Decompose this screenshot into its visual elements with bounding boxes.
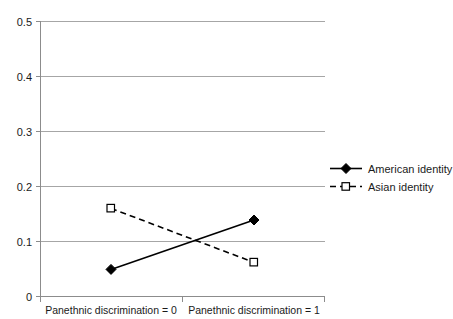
y-tick-label-0.5: 0.5: [17, 16, 32, 28]
y-tick-label-0.3: 0.3: [17, 126, 32, 138]
legend-label-american-identity: American identity: [368, 163, 453, 175]
legend-item-asian-identity[interactable]: Asian identity: [330, 181, 434, 193]
y-tick-label-0.2: 0.2: [17, 181, 32, 193]
legend-marker-square-icon: [342, 183, 350, 191]
x-label-left: Panethnic discrimination = 0: [45, 304, 177, 316]
line-chart: 0.5 0.4 0.3 0.2 0.1 0 Panethnic discrimi…: [0, 0, 453, 319]
y-tick-label-0: 0: [26, 291, 32, 303]
y-tick-label-0.4: 0.4: [17, 71, 32, 83]
data-point-asian-0: [107, 204, 115, 212]
y-tick-label-0.1: 0.1: [17, 236, 32, 248]
chart-container: 0.5 0.4 0.3 0.2 0.1 0 Panethnic discrimi…: [0, 0, 453, 319]
data-point-asian-1: [250, 258, 258, 266]
chart-background: [0, 0, 453, 319]
legend-label-asian-identity: Asian identity: [368, 181, 434, 193]
x-label-right: Panethnic discrimination = 1: [188, 304, 320, 316]
